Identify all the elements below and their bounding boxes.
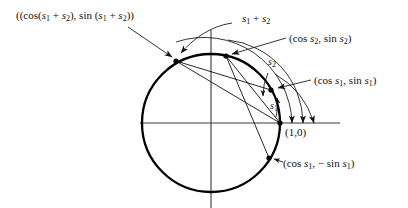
dot-cos-s1-minus-sin-s1 xyxy=(266,155,271,160)
label-point-neg-s1-text: (cos s1, − sin s1) xyxy=(283,157,354,169)
chord-sum-to-s1 xyxy=(176,61,271,90)
chords xyxy=(176,56,280,158)
label-point-s2-text: (cos s2, sin s2) xyxy=(289,32,351,44)
leader-point-neg-s1 xyxy=(274,159,283,162)
leader-lines xyxy=(128,23,311,162)
label-point-one-zero: (1,0) xyxy=(285,127,306,138)
label-arc-s1: s1 xyxy=(270,101,278,113)
arc-s1-outer xyxy=(275,74,314,123)
leader-sum-label xyxy=(128,27,172,57)
label-one-zero-text: (1,0) xyxy=(285,126,306,138)
label-cos-sum-sin-sum: ((cos(s1 + s2), sin (s1 + s2)) xyxy=(16,10,134,23)
label-point-cos-s1-sin-s1: (cos s1, sin s1) xyxy=(314,75,376,88)
label-arc-sum-text: s1 + s2 xyxy=(242,12,270,24)
label-arc-s2-text: s2 xyxy=(268,56,276,67)
label-point-cos-s1-minus-sin-s1: (cos s1, − sin s1) xyxy=(283,158,354,171)
unit-circle-angle-addition-figure: ((cos(s1 + s2), sin (s1 + s2)) s1 + s2 (… xyxy=(0,0,408,208)
label-arc-sum: s1 + s2 xyxy=(242,13,270,26)
chord-sum-to-one xyxy=(176,61,280,123)
label-arc-s2: s2 xyxy=(268,57,276,69)
dot-one-zero xyxy=(277,120,282,125)
axes xyxy=(140,30,340,208)
dot-cos-s1-sin-s1 xyxy=(268,87,273,92)
label-point-s1-text: (cos s1, sin s1) xyxy=(314,74,376,86)
dot-cos-s2-sin-s2 xyxy=(223,53,228,58)
leader-arc-sum-label xyxy=(181,23,232,53)
chord-s2-to-negs1 xyxy=(226,56,269,158)
leader-point-s2 xyxy=(232,38,286,54)
dot-cos-sum-sin-sum xyxy=(173,58,178,63)
label-arc-s1-text: s1 xyxy=(270,100,278,111)
label-sum-text: ((cos(s1 + s2), sin (s1 + s2)) xyxy=(16,9,134,21)
label-point-cos-s2-sin-s2: (cos s2, sin s2) xyxy=(289,33,351,46)
